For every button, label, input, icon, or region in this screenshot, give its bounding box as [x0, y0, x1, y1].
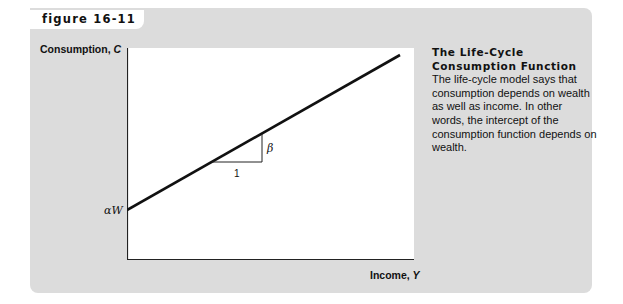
y-axis-label: Consumption, C	[40, 43, 121, 55]
consumption-function-graph: β 1	[127, 48, 414, 260]
figure-caption: The Life-Cycle Consumption Function The …	[432, 46, 597, 155]
run-label: 1	[234, 168, 240, 179]
figure-number: figure 16-11	[42, 12, 136, 26]
plot-area: β 1	[127, 48, 414, 260]
caption-body: The life-cycle model says that consumpti…	[432, 73, 597, 153]
slope-label: β	[266, 142, 273, 155]
consumption-line	[127, 55, 400, 210]
x-axis-label: Income, Y	[370, 269, 420, 281]
intercept-label: αW	[104, 204, 123, 217]
caption-title: The Life-Cycle Consumption Function	[432, 46, 577, 72]
figure-label-tab: figure 16-11	[26, 10, 144, 29]
